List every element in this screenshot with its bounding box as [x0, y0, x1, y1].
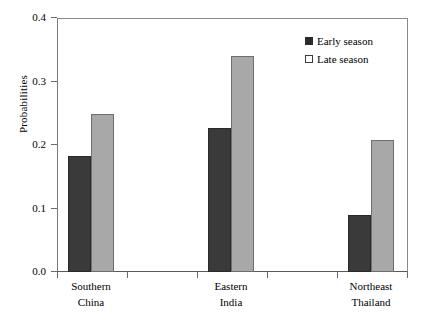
bar-late-eastern-india [231, 56, 254, 272]
legend-label-late: Late season [317, 51, 369, 67]
x-group-label-line1: Eastern [161, 278, 301, 294]
bar-late-northeast-thailand [371, 140, 394, 272]
x-group-label-line1: Northeast [301, 278, 421, 294]
bar-early-eastern-india [208, 128, 231, 272]
bar-late-southern-china [91, 114, 114, 272]
x-group-label-northeast-thailand: Northeast Thailand [301, 278, 421, 310]
y-tick-label: 0.3 [0, 74, 46, 89]
legend-entry-late-season: Late season [305, 51, 373, 67]
legend-label-early: Early season [317, 33, 373, 49]
y-tick-label: 0.0 [0, 264, 46, 279]
x-group-label-southern-china: Southern China [21, 278, 161, 310]
y-tick-label: 0.1 [0, 201, 46, 216]
bar-chart-figure: Probabilities 0.4 0.3 0.2 0.1 0.0 [0, 0, 421, 327]
x-group-label-line2: Thailand [301, 294, 421, 310]
x-group-label-eastern-india: Eastern India [161, 278, 301, 310]
legend-entry-early-season: Early season [305, 33, 373, 49]
y-tick-label: 0.2 [0, 137, 46, 152]
y-tick-label: 0.4 [0, 10, 46, 25]
legend-swatch-icon-early [305, 37, 313, 45]
x-group-label-line2: China [21, 294, 161, 310]
legend-swatch-icon-late [305, 55, 313, 63]
legend: Early season Late season [305, 33, 373, 69]
x-group-label-line2: India [161, 294, 301, 310]
bar-early-southern-china [68, 156, 91, 272]
bar-early-northeast-thailand [348, 215, 371, 272]
x-group-label-line1: Southern [21, 278, 161, 294]
